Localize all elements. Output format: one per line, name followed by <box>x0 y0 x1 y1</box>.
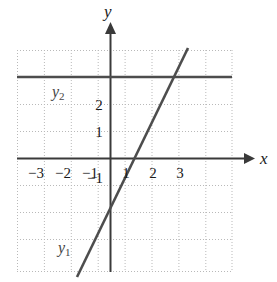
plot-canvas <box>0 0 277 282</box>
x-axis-label: x <box>260 150 268 167</box>
grid-vertical-lines <box>18 50 233 272</box>
series-label-y1: y1 <box>58 240 71 256</box>
series-label-y2: y2 <box>52 84 65 100</box>
x-tick-label-neg3: −3 <box>25 166 47 181</box>
x-tick-label-1: 1 <box>119 166 133 181</box>
series-line-y1 <box>77 48 188 277</box>
y-tick-label-1: 1 <box>92 125 106 140</box>
y-tick-label-neg1: −1 <box>84 171 106 186</box>
y-tick-label-2: 2 <box>92 98 106 113</box>
grid-horizontal-lines <box>17 51 232 272</box>
x-tick-label-neg2: −2 <box>52 166 74 181</box>
x-tick-label-3: 3 <box>173 166 187 181</box>
x-tick-label-2: 2 <box>146 166 160 181</box>
graph-figure: x y −3 −2 −1 1 2 3 2 1 −1 y2 y1 <box>0 0 277 282</box>
y-axis <box>105 22 116 272</box>
series-label-y2-sub: 2 <box>59 90 65 102</box>
y-axis-label: y <box>104 3 112 20</box>
series-label-y1-sub: 1 <box>65 246 71 258</box>
